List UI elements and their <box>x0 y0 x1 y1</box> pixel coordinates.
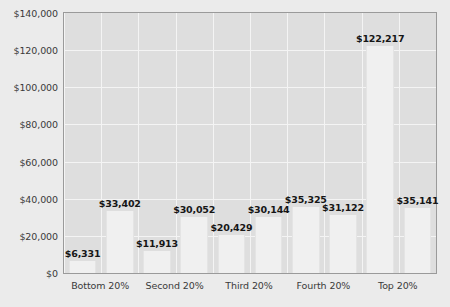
y-axis-tick-label: $100,000 <box>13 82 58 93</box>
bar-value-label: $30,052 <box>173 204 215 215</box>
vertical-gridline <box>324 13 325 273</box>
vertical-gridline <box>101 13 102 273</box>
bar <box>292 207 320 273</box>
bar-value-label: $35,141 <box>396 195 438 206</box>
vertical-gridline <box>250 13 251 273</box>
y-axis-tick-label: $80,000 <box>19 119 58 130</box>
y-axis-tick-label: $0 <box>46 268 58 279</box>
bar <box>69 261 97 273</box>
plot-inner <box>64 13 436 273</box>
vertical-gridline <box>399 13 400 273</box>
vertical-gridline <box>213 13 214 273</box>
x-axis: Bottom 20%Second 20%Third 20%Fourth 20%T… <box>63 276 437 298</box>
y-axis-tick-label: $140,000 <box>13 8 58 19</box>
x-axis-tick-label: Second 20% <box>146 280 204 291</box>
bar <box>329 215 357 273</box>
bar-value-label: $33,402 <box>99 198 141 209</box>
y-axis-tick-label: $120,000 <box>13 45 58 56</box>
x-axis-tick-label: Fourth 20% <box>297 280 351 291</box>
bar <box>404 208 432 273</box>
bar <box>218 235 246 273</box>
bar-value-label: $30,144 <box>248 204 290 215</box>
bar-value-label: $31,122 <box>322 202 364 213</box>
bar <box>366 46 394 273</box>
bar <box>143 251 171 273</box>
bar-value-label: $6,331 <box>65 248 100 259</box>
bar-value-label: $35,325 <box>285 194 327 205</box>
y-axis-tick-label: $20,000 <box>19 230 58 241</box>
plot-area <box>63 12 437 274</box>
x-axis-tick-label: Bottom 20% <box>71 280 129 291</box>
bar <box>255 217 283 273</box>
bar-chart: $0$20,000$40,000$60,000$80,000$100,000$1… <box>0 0 450 307</box>
y-axis-tick-label: $40,000 <box>19 193 58 204</box>
x-axis-tick-label: Third 20% <box>225 280 272 291</box>
bar <box>106 211 134 273</box>
x-axis-tick-label: Top 20% <box>378 280 417 291</box>
vertical-gridline <box>287 13 288 273</box>
bar-value-label: $122,217 <box>356 33 404 44</box>
vertical-gridline <box>362 13 363 273</box>
bar-value-label: $20,429 <box>210 222 252 233</box>
bar <box>180 217 208 273</box>
vertical-gridline <box>138 13 139 273</box>
y-axis-tick-label: $60,000 <box>19 156 58 167</box>
bar-value-label: $11,913 <box>136 238 178 249</box>
vertical-gridline <box>64 13 65 273</box>
y-axis: $0$20,000$40,000$60,000$80,000$100,000$1… <box>0 12 62 274</box>
vertical-gridline <box>176 13 177 273</box>
